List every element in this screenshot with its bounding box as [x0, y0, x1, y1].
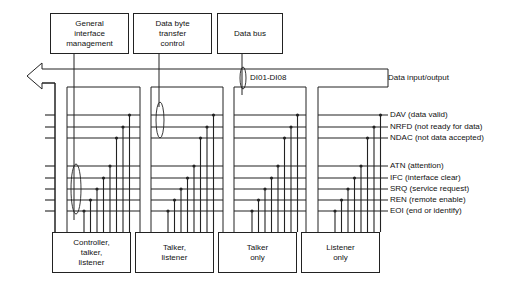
signal-eoi: EOI (end or identify): [390, 206, 462, 216]
general-interface-management-box: General interface management: [50, 13, 129, 54]
signal-ndac: NDAC (not data accepted): [390, 133, 484, 143]
signal-ren: REN (remote enable): [390, 195, 466, 205]
bus-label: DI01-DI08: [250, 73, 286, 83]
data-bus-ellipse: [240, 67, 246, 89]
signal-srq: SRQ (service request): [390, 184, 469, 194]
data-bus-box: Data bus: [217, 13, 283, 54]
transfer-ellipse: [156, 102, 164, 138]
device-listener-only: Listener only: [301, 232, 380, 273]
device-controller-talker-listener: Controller, talker, listener: [52, 232, 131, 273]
signal-atn: ATN (attention): [390, 161, 444, 171]
signal-nrfd: NRFD (not ready for data): [390, 122, 482, 132]
device-talker-only: Talker only: [218, 232, 297, 273]
bus-description: Data input/output: [388, 73, 449, 83]
device-talker-listener: Talker, listener: [135, 232, 214, 273]
signal-ifc: IFC (interface clear): [390, 173, 461, 183]
data-byte-transfer-control-box: Data byte transfer control: [133, 13, 212, 54]
signal-dav: DAV (data valid): [390, 110, 448, 120]
